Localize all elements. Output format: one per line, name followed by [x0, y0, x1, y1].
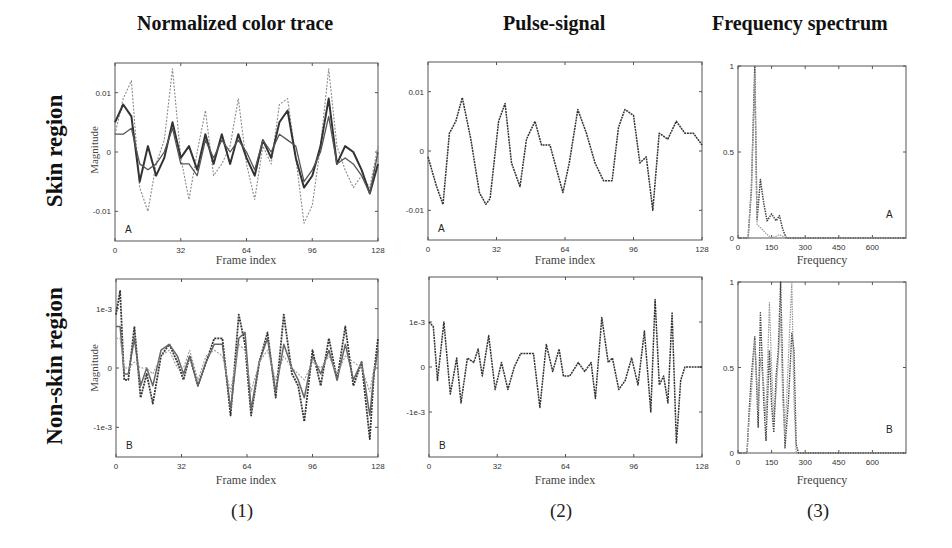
svg-text:64: 64 [561, 245, 570, 254]
svg-text:0: 0 [730, 234, 735, 243]
panel-number-1: (1) [231, 500, 253, 522]
row-label-skin-region: Skin region [42, 81, 68, 221]
svg-text:A: A [125, 224, 132, 235]
svg-text:32: 32 [176, 246, 185, 255]
svg-text:300: 300 [799, 458, 813, 467]
svg-text:32: 32 [492, 245, 501, 254]
y-axis-label-skin: Magnitude [88, 110, 100, 190]
x-axis-label-frame-index-1b: Frame index [196, 473, 296, 488]
svg-text:96: 96 [629, 462, 638, 471]
svg-text:0: 0 [427, 462, 432, 471]
svg-text:32: 32 [177, 462, 186, 471]
svg-text:A: A [886, 209, 893, 220]
svg-text:0.5: 0.5 [723, 148, 735, 157]
svg-text:32: 32 [493, 462, 502, 471]
svg-text:64: 64 [242, 246, 251, 255]
svg-text:0: 0 [114, 462, 119, 471]
svg-text:64: 64 [561, 462, 570, 471]
svg-text:0: 0 [421, 363, 426, 372]
svg-text:1: 1 [730, 62, 735, 71]
svg-text:128: 128 [371, 246, 385, 255]
svg-text:0: 0 [113, 246, 118, 255]
svg-text:600: 600 [866, 458, 880, 467]
svg-text:1e-3: 1e-3 [409, 318, 426, 327]
svg-text:0.01: 0.01 [408, 88, 424, 97]
svg-text:128: 128 [371, 462, 385, 471]
plot-frequency-spectrum-skin: 015030045060010.50A [738, 66, 906, 238]
row-label-non-skin-region: Non-skin region [42, 276, 68, 456]
svg-text:1: 1 [730, 278, 735, 287]
column-title-normalized-color-trace: Normalized color trace [137, 12, 333, 35]
x-axis-label-frame-index-2b: Frame index [515, 473, 615, 488]
column-title-pulse-signal: Pulse-signal [503, 12, 605, 35]
panel-number-2: (2) [550, 500, 572, 522]
svg-text:600: 600 [866, 243, 880, 252]
svg-text:-0.01: -0.01 [93, 207, 112, 216]
plot-pulse-signal-skin: 03264961280.010-0.01A [428, 62, 702, 240]
svg-text:0: 0 [107, 148, 112, 157]
x-axis-label-frame-index-1a: Frame index [196, 253, 296, 268]
svg-text:96: 96 [308, 462, 317, 471]
y-axis-label-nonskin: Magnitude [88, 328, 100, 408]
svg-text:0: 0 [420, 147, 425, 156]
svg-text:-1e-3: -1e-3 [406, 408, 425, 417]
svg-text:0.01: 0.01 [95, 89, 111, 98]
svg-text:0: 0 [426, 245, 431, 254]
svg-text:B: B [886, 424, 893, 435]
svg-text:128: 128 [695, 462, 709, 471]
svg-text:300: 300 [799, 243, 813, 252]
plot-pulse-signal-nonskin: 03264961281e-30-1e-3B [429, 277, 702, 457]
panel-number-3: (3) [807, 500, 829, 522]
svg-text:150: 150 [765, 458, 779, 467]
x-axis-label-frame-index-2a: Frame index [515, 253, 615, 268]
svg-text:96: 96 [308, 246, 317, 255]
svg-text:128: 128 [695, 245, 709, 254]
svg-text:A: A [438, 223, 445, 234]
svg-text:0: 0 [108, 364, 113, 373]
svg-text:96: 96 [629, 245, 638, 254]
svg-text:1e-3: 1e-3 [96, 305, 113, 314]
column-title-frequency-spectrum: Frequency spectrum [712, 12, 888, 35]
svg-text:150: 150 [765, 243, 779, 252]
svg-text:B: B [439, 440, 446, 451]
svg-text:0: 0 [730, 449, 735, 458]
plot-color-trace-skin: 03264961280.010-0.01A [115, 63, 378, 241]
svg-text:B: B [126, 440, 133, 451]
x-axis-label-frequency-3b: Frequency [772, 473, 872, 488]
svg-text:64: 64 [243, 462, 252, 471]
x-axis-label-frequency-3a: Frequency [772, 253, 872, 268]
plot-frequency-spectrum-nonskin: 015030045060010.50B [738, 282, 906, 453]
svg-text:450: 450 [832, 458, 846, 467]
svg-text:0: 0 [736, 458, 741, 467]
svg-text:-0.01: -0.01 [406, 206, 425, 215]
svg-text:-1e-3: -1e-3 [93, 423, 112, 432]
svg-text:450: 450 [832, 243, 846, 252]
svg-text:0.5: 0.5 [723, 364, 735, 373]
plot-color-trace-nonskin: 03264961281e-30-1e-3B [116, 279, 378, 457]
svg-text:0: 0 [736, 243, 741, 252]
